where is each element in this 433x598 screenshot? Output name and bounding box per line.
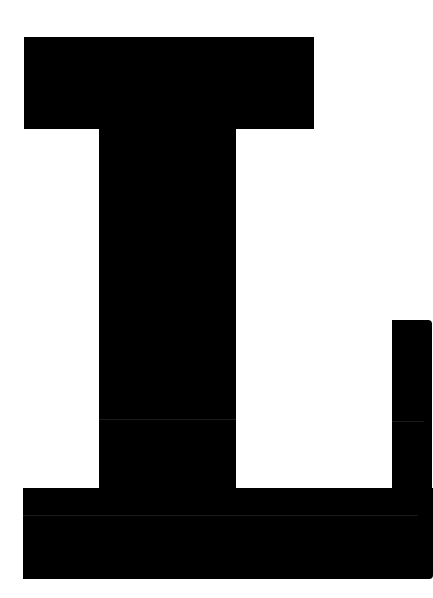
stem — [99, 128, 236, 490]
scan-seam-line — [392, 421, 424, 422]
right-serif — [392, 320, 432, 490]
top-serif-bar — [24, 37, 314, 129]
bottom-bar — [23, 488, 433, 579]
scan-seam-line — [23, 515, 418, 516]
scan-seam-line — [99, 419, 236, 420]
